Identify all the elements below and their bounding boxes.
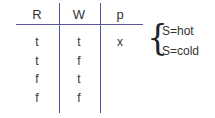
header-rule — [16, 24, 143, 25]
column-divider-1 — [59, 3, 60, 113]
cell-r-4: f — [27, 91, 47, 105]
cell-w-2: f — [69, 54, 89, 68]
header-r: R — [27, 8, 47, 22]
option-hot: S=hot — [162, 24, 194, 38]
cell-r-3: f — [27, 72, 47, 86]
column-divider-2 — [100, 3, 101, 113]
cell-w-4: f — [69, 91, 89, 105]
cell-w-3: t — [69, 72, 89, 86]
cell-r-1: t — [27, 35, 47, 49]
cell-w-1: t — [69, 35, 89, 49]
option-cold: S=cold — [162, 44, 199, 58]
cell-r-2: t — [27, 54, 47, 68]
cell-p-1: x — [110, 35, 130, 49]
header-p: p — [110, 8, 130, 22]
header-w: W — [69, 8, 89, 22]
